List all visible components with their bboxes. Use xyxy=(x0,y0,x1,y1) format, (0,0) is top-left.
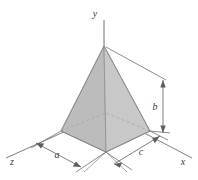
pyramid-face-right xyxy=(104,46,150,152)
x-axis-label: x xyxy=(180,156,186,167)
dimension-c-label: c xyxy=(139,146,144,157)
ground-line-front-extend-left xyxy=(84,152,106,172)
figure-container: b a c y x z xyxy=(0,0,198,180)
z-axis-label: z xyxy=(9,156,14,167)
dimension-c-arrow-end xyxy=(152,136,160,143)
y-axis-label: y xyxy=(92,8,98,19)
pyramid-solid xyxy=(61,46,150,152)
pyramid-diagram: b a c y x z xyxy=(0,0,198,180)
dimension-a-arrow-end xyxy=(73,161,81,167)
dimension-a-extension-start xyxy=(31,131,61,148)
dimension-b-arrow-top xyxy=(160,80,165,88)
dimension-a-arrow-start xyxy=(36,143,44,149)
pyramid-face-left xyxy=(61,46,106,152)
dimension-a-extension-end xyxy=(76,152,106,172)
dimension-a-label: a xyxy=(55,149,60,160)
dimension-b-label: b xyxy=(153,101,158,112)
